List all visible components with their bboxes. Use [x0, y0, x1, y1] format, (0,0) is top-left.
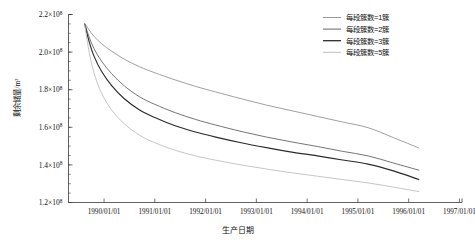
chart-svg: 1.2×1081.4×1081.6×1081.8×1082.0×1082.2×1…: [0, 0, 475, 244]
y-tick-label: 2.0×108: [39, 47, 63, 57]
x-tick-group: 1990/01/011991/01/011992/01/011993/01/01…: [88, 199, 475, 217]
x-tick-label: 1996/01/01: [392, 208, 425, 216]
plot-area: 1.2×1081.4×1081.6×1081.8×1082.0×1082.2×1…: [0, 0, 475, 244]
x-tick-label: 1990/01/01: [88, 208, 121, 216]
legend-label: 每段簇数=5簇: [346, 48, 390, 57]
legend-label: 每段簇数=3簇: [346, 37, 390, 46]
legend-label: 每段簇数=1簇: [346, 13, 390, 22]
x-tick-label: 1991/01/01: [138, 208, 171, 216]
legend: 每段簇数=1簇每段簇数=2簇每段簇数=3簇每段簇数=5簇: [323, 13, 390, 57]
x-tick-label: 1997/01/01: [443, 208, 475, 216]
y-tick-label: 1.2×108: [39, 198, 63, 208]
chart-root: 剩余储量/m³ 生产日期 1.2×1081.4×1081.6×1081.8×10…: [0, 0, 475, 244]
y-tick-label: 1.8×108: [39, 85, 63, 95]
legend-label: 每段簇数=2簇: [346, 25, 390, 34]
x-tick-label: 1995/01/01: [342, 208, 375, 216]
y-tick-label: 1.4×108: [39, 160, 63, 170]
x-tick-label: 1992/01/01: [189, 208, 222, 216]
y-tick-group: 1.2×1081.4×1081.6×1081.8×1082.0×1082.2×1…: [39, 10, 73, 208]
x-tick-label: 1994/01/01: [291, 208, 324, 216]
x-tick-label: 1993/01/01: [240, 208, 273, 216]
y-tick-label: 1.6×108: [39, 122, 63, 132]
data-series-line: [85, 24, 419, 170]
y-tick-label: 2.2×108: [39, 10, 63, 20]
